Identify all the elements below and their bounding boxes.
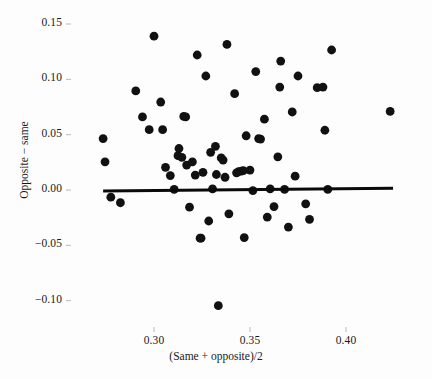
data-point xyxy=(131,87,140,96)
data-point xyxy=(251,67,260,76)
data-point xyxy=(263,213,272,222)
data-point xyxy=(260,115,269,124)
data-points-layer xyxy=(99,32,395,310)
data-point xyxy=(188,157,197,166)
y-tick-label: −0.05 xyxy=(6,237,62,249)
data-point xyxy=(319,83,328,92)
y-tick-label: 0.05 xyxy=(6,127,62,139)
data-point xyxy=(197,234,206,243)
data-point xyxy=(181,113,190,122)
data-point xyxy=(191,171,200,180)
data-point xyxy=(256,135,265,144)
data-point xyxy=(246,166,255,175)
data-point xyxy=(273,152,282,161)
data-point xyxy=(240,233,249,242)
data-point xyxy=(106,193,115,202)
data-point xyxy=(275,83,284,92)
x-tick-label: 0.35 xyxy=(220,334,280,346)
data-point xyxy=(288,108,297,117)
data-point xyxy=(199,168,208,177)
data-point xyxy=(116,198,125,207)
data-point xyxy=(305,215,314,224)
data-point xyxy=(219,156,228,165)
data-point xyxy=(284,223,293,232)
y-axis-title: Opposite − same xyxy=(18,90,30,230)
data-point xyxy=(223,40,232,49)
data-point xyxy=(150,32,159,41)
data-point xyxy=(175,144,184,153)
data-point xyxy=(327,46,336,55)
data-point xyxy=(177,153,186,162)
data-point xyxy=(211,142,220,151)
data-point xyxy=(158,125,167,134)
data-point xyxy=(101,157,110,166)
data-point xyxy=(99,134,108,143)
y-tick-label: −0.10 xyxy=(6,293,62,305)
data-point xyxy=(276,57,285,66)
data-point xyxy=(291,172,300,181)
plot-canvas xyxy=(0,0,432,379)
data-point xyxy=(156,98,165,107)
data-point xyxy=(294,72,303,81)
data-point xyxy=(138,113,147,122)
data-point xyxy=(161,163,170,172)
data-point xyxy=(221,173,230,182)
scatter-plot-figure: Opposite − same (Same + opposite)/2 0.15… xyxy=(0,0,432,379)
y-tick-label: 0.15 xyxy=(6,16,62,28)
x-tick-label: 0.40 xyxy=(316,334,376,346)
x-tick-label: 0.30 xyxy=(124,334,184,346)
data-point xyxy=(204,217,213,226)
data-point xyxy=(201,72,210,81)
data-point xyxy=(242,131,251,140)
data-point xyxy=(212,170,221,179)
data-point xyxy=(301,199,310,208)
data-point xyxy=(320,126,329,135)
fit-line xyxy=(103,188,393,191)
data-point xyxy=(270,202,279,211)
data-point xyxy=(224,209,233,218)
x-axis-title: (Same + opposite)/2 xyxy=(0,350,432,362)
data-point xyxy=(185,203,194,212)
y-tick-label: 0.10 xyxy=(6,71,62,83)
regression-line xyxy=(103,188,393,191)
data-point xyxy=(145,125,154,134)
tick-marks xyxy=(66,24,346,332)
data-point xyxy=(166,171,175,180)
data-point xyxy=(386,107,395,116)
data-point xyxy=(230,89,239,98)
y-tick-label: 0.00 xyxy=(6,182,62,194)
data-point xyxy=(214,301,223,310)
data-point xyxy=(193,51,202,60)
